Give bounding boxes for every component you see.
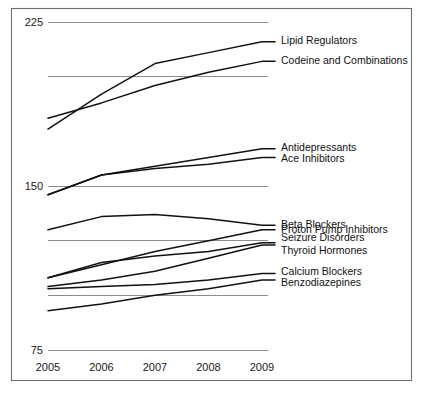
series-label-antidepressants: Antidepressants	[281, 141, 356, 153]
x-tick-label-2009: 2009	[250, 361, 274, 373]
y-tick-label-225: 225	[25, 16, 43, 28]
series-label-seizure-disorders: Seizure Disorders	[281, 231, 364, 243]
y-tick-label-75: 75	[31, 344, 43, 356]
series-label-lipid-regulators: Lipid Regulators	[281, 34, 357, 46]
series-label-ace-inhibitors: Ace Inhibitors	[281, 152, 345, 164]
x-tick-label-2007: 2007	[143, 361, 167, 373]
x-tick-label-2005: 2005	[36, 361, 60, 373]
y-tick-label-150: 150	[25, 180, 43, 192]
x-tick-label-2006: 2006	[89, 361, 113, 373]
chart-canvas: 22515075 20052006200720082009 Lipid Regu…	[0, 0, 423, 393]
line-chart-figure: 22515075 20052006200720082009 Lipid Regu…	[0, 0, 423, 393]
x-tick-label-2008: 2008	[196, 361, 220, 373]
series-label-thyroid-hormones: Thyroid Hormones	[281, 244, 367, 256]
series-label-benzodiazepines: Benzodiazepines	[281, 276, 361, 288]
series-label-codeine-and-combinations: Codeine and Combinations	[281, 54, 408, 66]
